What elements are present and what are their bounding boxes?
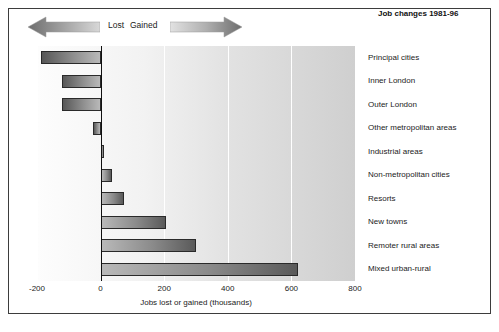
category-label: New towns [368, 217, 407, 226]
bar [101, 169, 112, 182]
category-label: Principal cities [368, 53, 419, 62]
gridline [291, 46, 292, 281]
category-label: Resorts [368, 194, 396, 203]
category-label: Mixed urban-rural [368, 264, 431, 273]
x-tick-label: 800 [348, 284, 361, 293]
category-label: Remoter rural areas [368, 241, 439, 250]
bar [101, 192, 125, 205]
chart-figure: Lost Gained Job changes 1981-96 -2000200… [0, 0, 499, 332]
x-tick-label: -200 [29, 284, 45, 293]
bar [93, 122, 101, 135]
bar [101, 263, 298, 276]
bar [101, 239, 196, 252]
category-label: Outer London [368, 100, 417, 109]
chart-title: Job changes 1981-96 [378, 9, 458, 18]
gridline [355, 46, 356, 281]
category-label: Inner London [368, 76, 415, 85]
bar [41, 51, 100, 64]
arrow-left-icon [28, 16, 100, 38]
category-label: Industrial areas [368, 147, 423, 156]
bar [101, 216, 166, 229]
bar [62, 75, 101, 88]
category-label: Other metropolitan areas [368, 123, 457, 132]
legend-label-lost: Lost [108, 20, 124, 30]
x-tick-label: 600 [285, 284, 298, 293]
x-tick-label: 200 [158, 284, 171, 293]
gridline [37, 46, 38, 281]
plot-area [37, 46, 355, 281]
x-axis-label: Jobs lost or gained (thousands) [37, 298, 355, 307]
arrow-right-icon [170, 16, 242, 38]
bar [62, 98, 100, 111]
legend-label-gained: Gained [130, 20, 157, 30]
zero-axis-line [101, 46, 102, 281]
category-label: Non-metropolitan cities [368, 170, 450, 179]
x-tick-label: 400 [221, 284, 234, 293]
x-tick-label: 0 [98, 284, 102, 293]
gridline [228, 46, 229, 281]
